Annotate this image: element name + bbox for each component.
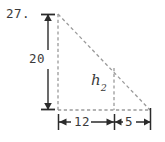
horizontal-dimension-group — [58, 108, 151, 130]
arrow-right-icon — [144, 119, 151, 126]
triangle-hypotenuse — [58, 14, 150, 110]
interior-height-symbol: h — [91, 71, 101, 89]
dimension-label-height: 20 — [29, 53, 45, 66]
interior-height-label: h2 — [91, 73, 107, 91]
interior-height-subscript: 2 — [101, 82, 107, 93]
dimension-label-base-left: 12 — [74, 116, 90, 129]
arrow-left-icon — [115, 119, 122, 126]
arrow-right-icon — [107, 118, 115, 125]
geometry-figure: 27. 20 12 5 h2 — [0, 0, 165, 142]
dimension-label-base-right: 5 — [125, 116, 133, 129]
problem-number: 27. — [6, 8, 30, 21]
triangle-outline — [58, 14, 150, 110]
arrow-left-icon — [59, 118, 67, 125]
